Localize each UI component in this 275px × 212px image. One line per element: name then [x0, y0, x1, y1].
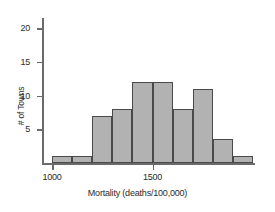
y-tick-mark: 20	[37, 28, 43, 30]
y-tick-label: 5	[25, 124, 30, 134]
plot-area: 5101520 10001500	[42, 18, 255, 163]
y-tick-label: 15	[20, 57, 30, 67]
x-axis-line	[42, 163, 255, 165]
histogram-bar	[153, 82, 173, 163]
x-tick-label: 1000	[42, 172, 61, 182]
histogram-bar	[173, 109, 193, 163]
histogram-bar	[193, 89, 213, 163]
histogram-bar	[52, 156, 72, 163]
histogram-bar	[213, 139, 233, 163]
y-axis-line	[42, 18, 44, 163]
x-axis-title: Mortality (deaths/100,000)	[0, 188, 275, 198]
x-tick-mark	[153, 164, 155, 170]
y-tick-label: 20	[20, 23, 30, 33]
histogram-bar	[72, 156, 92, 163]
x-tick-mark	[52, 164, 54, 170]
histogram-bar	[92, 116, 112, 163]
y-tick-mark: 15	[37, 62, 43, 64]
y-tick-mark: 5	[37, 129, 43, 131]
histogram-bar	[112, 109, 132, 163]
y-tick-mark: 10	[37, 96, 43, 98]
histogram-bar	[132, 82, 152, 163]
histogram-chart: # of Towns 5101520 10001500 Mortality (d…	[0, 0, 275, 212]
y-tick-label: 10	[20, 91, 30, 101]
x-tick-label: 1500	[143, 172, 162, 182]
histogram-bar	[233, 156, 253, 163]
